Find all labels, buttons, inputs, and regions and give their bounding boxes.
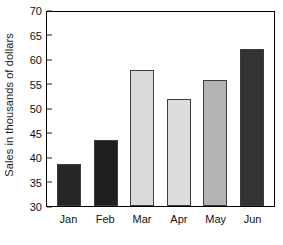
bar-slot — [88, 12, 125, 206]
y-tick-mark — [47, 10, 52, 11]
y-tick-label: 40 — [30, 152, 42, 164]
x-tick-label-apr: Apr — [160, 209, 197, 231]
bar-slot — [51, 12, 88, 206]
bar-jan[interactable] — [57, 164, 81, 206]
bar-chart-figure: Sales in thousands of dollars 3035404550… — [0, 0, 283, 245]
x-tick-label-jun: Jun — [234, 209, 271, 231]
x-tick-label-may: May — [197, 209, 234, 231]
y-tick-label: 65 — [30, 30, 42, 42]
x-axis-tick-labels: JanFebMarAprMayJun — [46, 209, 275, 231]
y-axis-title-text: Sales in thousands of dollars — [3, 33, 15, 177]
bar-feb[interactable] — [94, 140, 118, 206]
bar-slot — [124, 12, 161, 206]
bar-slot — [197, 12, 234, 206]
bar-jun[interactable] — [240, 49, 264, 206]
bar-may[interactable] — [203, 80, 227, 206]
bar-apr[interactable] — [167, 99, 191, 206]
bar-slot — [161, 12, 198, 206]
y-axis-tick-labels: 303540455055606570 — [18, 0, 44, 210]
y-tick-label: 35 — [30, 177, 42, 189]
bar-series — [47, 12, 274, 206]
y-axis-title: Sales in thousands of dollars — [0, 0, 18, 210]
y-tick-mark — [47, 206, 52, 207]
y-tick-label: 45 — [30, 128, 42, 140]
y-tick-label: 60 — [30, 54, 42, 66]
y-tick-label: 70 — [30, 5, 42, 17]
x-tick-label-jan: Jan — [50, 209, 87, 231]
y-tick-label: 55 — [30, 79, 42, 91]
plot-area — [46, 11, 275, 207]
x-tick-label-feb: Feb — [87, 209, 124, 231]
plot-inner — [47, 12, 274, 206]
bar-mar[interactable] — [130, 70, 154, 206]
y-tick-label: 30 — [30, 201, 42, 213]
x-tick-label-mar: Mar — [124, 209, 161, 231]
bar-slot — [234, 12, 271, 206]
y-tick-label: 50 — [30, 103, 42, 115]
